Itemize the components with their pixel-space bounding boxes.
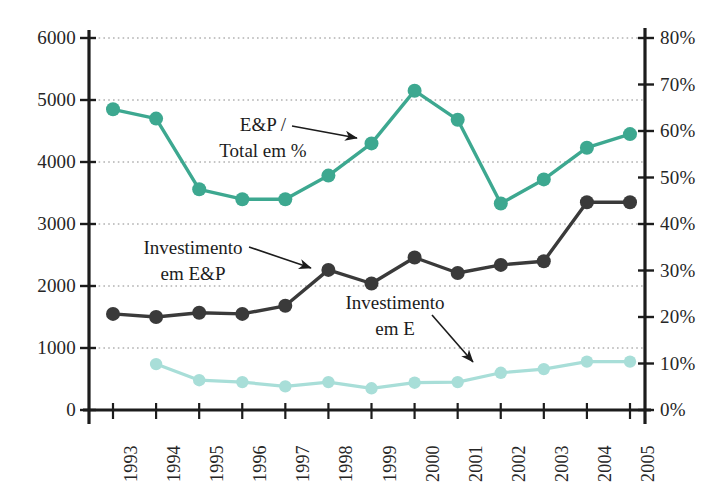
- y-axis-right-label: 70%: [660, 74, 695, 96]
- data-point: [322, 376, 334, 388]
- data-point: [192, 182, 206, 196]
- data-point: [321, 263, 335, 277]
- data-point: [538, 363, 550, 375]
- data-point: [235, 192, 249, 206]
- data-point: [451, 266, 465, 280]
- line-chart: 0100020003000400050006000 0%10%20%30%40%…: [0, 0, 718, 504]
- x-axis-label-1997: 1997: [293, 445, 314, 482]
- data-point: [236, 376, 248, 388]
- y-axis-left-label: 2000: [8, 275, 76, 297]
- chart-canvas: [0, 0, 718, 504]
- y-axis-left-label: 1000: [8, 337, 76, 359]
- annotation-ep-total-line1: E&P /: [205, 112, 321, 138]
- y-axis-right-label: 20%: [660, 306, 695, 328]
- annotation-ep-total-line2: Total em %: [205, 138, 321, 164]
- y-axis-left-label: 6000: [8, 27, 76, 49]
- series-line: [156, 362, 630, 389]
- x-axis-label-1994: 1994: [164, 445, 185, 482]
- data-point: [494, 197, 508, 211]
- y-axis-right-label: 50%: [660, 167, 695, 189]
- data-point: [580, 195, 594, 209]
- data-point: [149, 112, 163, 126]
- data-point: [278, 299, 292, 313]
- annotation-inv-ep-line1: Investimento: [128, 235, 258, 261]
- data-point: [451, 113, 465, 127]
- series-1: [106, 84, 637, 211]
- annotation-inv-e-line1: Investimento: [330, 290, 460, 316]
- data-point: [365, 382, 377, 394]
- x-axis-label-2003: 2003: [552, 445, 573, 482]
- data-point: [278, 192, 292, 206]
- annotation-ep-total: E&P / Total em %: [205, 112, 321, 163]
- x-axis-label-2004: 2004: [595, 445, 616, 482]
- x-axis-label-2000: 2000: [423, 445, 444, 482]
- y-axis-right-label: 40%: [660, 213, 695, 235]
- data-point: [192, 306, 206, 320]
- annotation-inv-e-line2: em E: [330, 316, 460, 342]
- x-axis-label-1995: 1995: [207, 445, 228, 482]
- data-point: [365, 277, 379, 291]
- x-axis-label-2001: 2001: [466, 445, 487, 482]
- data-point: [408, 377, 420, 389]
- y-axis-right-label: 80%: [660, 27, 695, 49]
- data-point: [408, 84, 422, 98]
- data-point: [623, 195, 637, 209]
- data-point: [624, 355, 636, 367]
- data-point: [581, 355, 593, 367]
- x-axis-label-2002: 2002: [509, 445, 530, 482]
- y-axis-left-label: 3000: [8, 213, 76, 235]
- x-axis-label-1993: 1993: [121, 445, 142, 482]
- data-point: [150, 358, 162, 370]
- data-point: [495, 367, 507, 379]
- arrow-inv-ep: [249, 247, 311, 268]
- y-axis-right-label: 60%: [660, 120, 695, 142]
- annotation-inv-e: Investimento em E: [330, 290, 460, 341]
- data-point: [580, 141, 594, 155]
- x-axis-label-1999: 1999: [380, 445, 401, 482]
- annotation-inv-ep: Investimento em E&P: [128, 235, 258, 286]
- data-point: [193, 374, 205, 386]
- annotation-inv-ep-line2: em E&P: [128, 261, 258, 287]
- x-axis-label-1996: 1996: [250, 445, 271, 482]
- y-axis-right-label: 30%: [660, 260, 695, 282]
- y-axis-right-label: 10%: [660, 353, 695, 375]
- data-point: [408, 251, 422, 265]
- data-point: [537, 172, 551, 186]
- y-axis-left-label: 5000: [8, 89, 76, 111]
- data-point: [365, 136, 379, 150]
- data-point: [106, 102, 120, 116]
- y-axis-left-label: 0: [8, 399, 76, 421]
- data-point: [279, 380, 291, 392]
- data-point: [623, 127, 637, 141]
- y-axis-right-label: 0%: [660, 399, 686, 421]
- y-axis-left-label: 4000: [8, 151, 76, 173]
- data-point: [537, 254, 551, 268]
- x-axis-label-2005: 2005: [638, 445, 659, 482]
- data-point: [149, 310, 163, 324]
- data-point: [321, 169, 335, 183]
- data-point: [235, 307, 249, 321]
- data-point: [452, 376, 464, 388]
- data-point: [106, 307, 120, 321]
- data-point: [494, 258, 508, 272]
- series-3: [150, 355, 636, 394]
- x-axis-label-1998: 1998: [336, 445, 357, 482]
